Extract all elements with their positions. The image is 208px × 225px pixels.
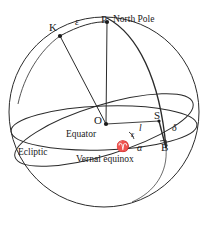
aries-symbol: ♈: [116, 141, 130, 152]
sphere-outline: [9, 17, 199, 207]
ecliptic-pole-symbol: K: [49, 22, 57, 33]
declination: δ: [172, 123, 177, 133]
north-pole-symbol: P: [101, 14, 107, 25]
vernal-equinox-label: Vernal equinox: [76, 155, 134, 165]
colure-left-arc: [18, 36, 60, 104]
north-pole-name: North Pole: [113, 15, 154, 25]
obliquity-angle: ε: [131, 131, 134, 139]
star-symbol: S: [154, 110, 160, 121]
foot-symbol: B: [161, 142, 168, 153]
point-marker-ecliptic-pole: [58, 34, 62, 38]
ecliptic-label: Ecliptic: [18, 148, 48, 158]
obliquity-arc: ε: [75, 17, 79, 27]
hour-circle-arc: [107, 18, 166, 148]
celestial-sphere-figure: PNorth PoleKεOSδlEquatorεαBEcliptic♈Vern…: [0, 0, 208, 225]
radius-O-S: [106, 121, 159, 124]
polar-axis-P-O: [106, 22, 107, 124]
celestial-equator-circle: [10, 103, 197, 153]
point-marker-center: [104, 122, 108, 126]
center-symbol: O: [94, 115, 102, 126]
equator-label: Equator: [66, 130, 96, 140]
celestial-sphere-drawing: [0, 0, 208, 225]
right-ascension: α: [137, 143, 142, 153]
ecliptic-longitude: l: [139, 124, 142, 134]
hour-circle-back-arc: [132, 148, 166, 202]
